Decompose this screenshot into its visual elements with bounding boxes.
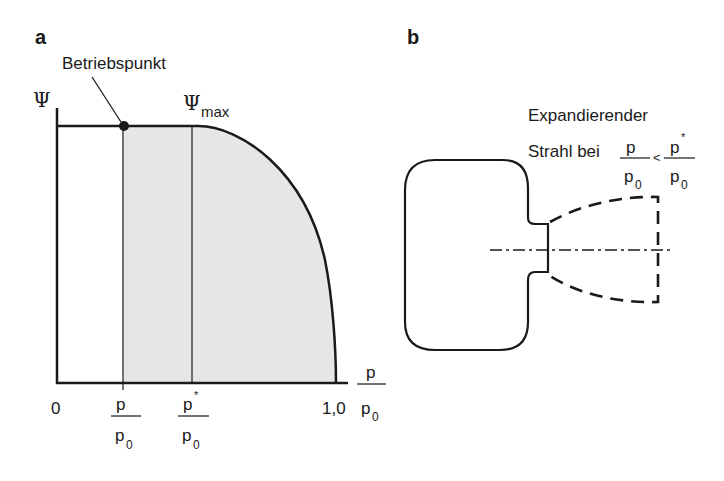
caption-fraction-1: p p 0 bbox=[620, 138, 650, 192]
x-tick-p-ratio: p p 0 bbox=[111, 395, 141, 452]
caption-line1: Expandierender bbox=[528, 106, 648, 125]
operating-point-label: Betriebspunkt bbox=[62, 54, 166, 73]
caption-fraction-2: p * p 0 bbox=[664, 131, 695, 192]
svg-text:0: 0 bbox=[635, 178, 642, 192]
svg-text:p: p bbox=[624, 167, 633, 186]
figure-canvas: a Betriebspunkt Ψ Ψ max 0 1,0 p p 0 p * … bbox=[0, 0, 724, 481]
psi-max-symbol: Ψ bbox=[183, 91, 201, 115]
svg-text:0: 0 bbox=[372, 410, 379, 424]
panel-a: a Betriebspunkt Ψ Ψ max 0 1,0 p p 0 p * … bbox=[33, 26, 386, 452]
caption-line2: Strahl bei bbox=[528, 142, 600, 161]
svg-text:0: 0 bbox=[193, 438, 200, 452]
panel-b: b Expandierender Strahl bei p p 0 < p * … bbox=[405, 26, 695, 350]
svg-text:p: p bbox=[183, 395, 192, 414]
svg-text:p: p bbox=[361, 399, 370, 418]
x-axis-label: p p 0 bbox=[357, 363, 386, 424]
panel-a-label: a bbox=[35, 26, 47, 48]
svg-text:p: p bbox=[670, 138, 679, 157]
svg-text:p: p bbox=[116, 395, 125, 414]
shaded-area bbox=[123, 126, 336, 383]
panel-b-label: b bbox=[407, 26, 419, 48]
svg-text:p: p bbox=[670, 167, 679, 186]
operating-point-dot bbox=[119, 121, 129, 131]
svg-text:p: p bbox=[182, 426, 191, 445]
x-tick-one: 1,0 bbox=[322, 399, 346, 418]
svg-text:0: 0 bbox=[126, 438, 133, 452]
svg-text:p: p bbox=[115, 426, 124, 445]
tank-outline bbox=[405, 160, 548, 350]
svg-text:*: * bbox=[194, 389, 199, 401]
operating-point-leader bbox=[92, 77, 121, 122]
x-tick-pstar-ratio: p * p 0 bbox=[178, 389, 209, 452]
svg-text:0: 0 bbox=[681, 178, 688, 192]
svg-text:p: p bbox=[366, 363, 375, 382]
y-axis-label: Ψ bbox=[33, 88, 51, 112]
svg-text:p: p bbox=[626, 138, 635, 157]
x-tick-zero: 0 bbox=[51, 399, 60, 418]
comparison-sign: < bbox=[653, 150, 661, 165]
svg-text:*: * bbox=[681, 131, 686, 143]
psi-max-subscript: max bbox=[201, 103, 230, 120]
